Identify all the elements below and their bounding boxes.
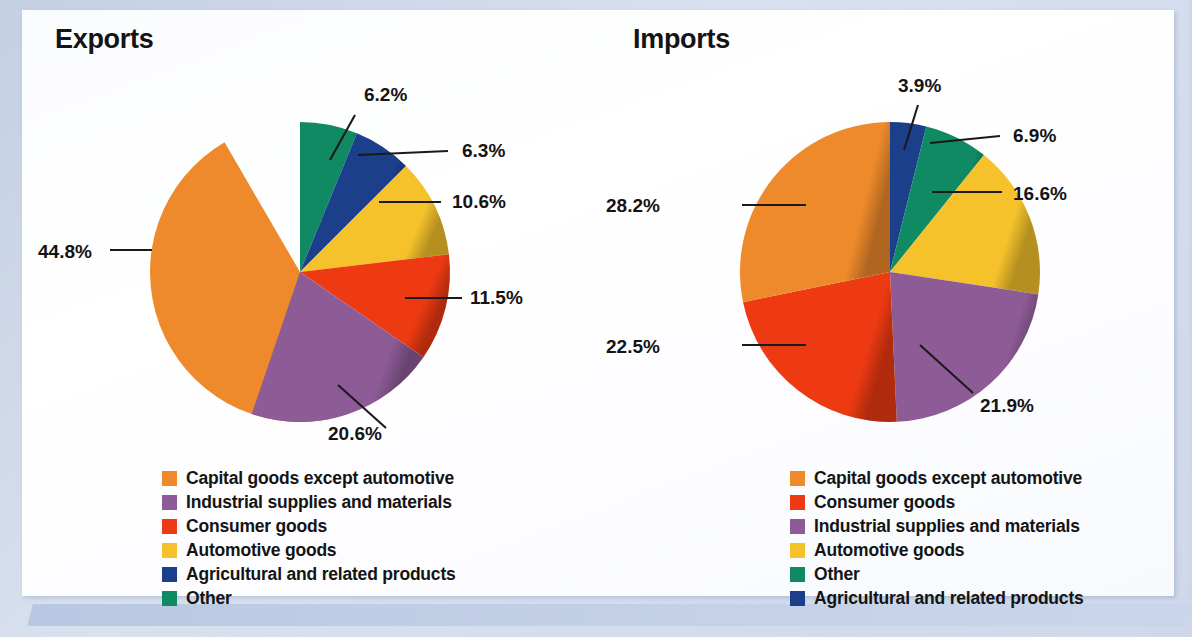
legend-item: Agricultural and related products <box>162 562 456 586</box>
slice-percent-label: 6.2% <box>364 84 407 105</box>
exports-pie-chart: 44.8%6.2%6.3%10.6%11.5%20.6% <box>0 0 594 470</box>
legend-item: Agricultural and related products <box>790 586 1084 610</box>
imports-pie-slices <box>740 122 1040 422</box>
imports-legend: Capital goods except automotiveConsumer … <box>790 466 1084 610</box>
slice-percent-label: 3.9% <box>898 75 941 96</box>
legend-color-swatch <box>162 471 177 486</box>
legend-color-swatch <box>162 567 177 582</box>
legend-color-swatch <box>790 567 805 582</box>
legend-item: Other <box>162 586 456 610</box>
exports-pie-slices <box>150 122 450 422</box>
slice-percent-label: 10.6% <box>452 191 506 212</box>
legend-item-label: Industrial supplies and materials <box>186 492 452 513</box>
legend-item-label: Other <box>814 564 860 585</box>
slice-percent-label: 11.5% <box>470 287 523 308</box>
legend-color-swatch <box>162 591 177 606</box>
legend-item-label: Other <box>186 588 232 609</box>
legend-item-label: Agricultural and related products <box>814 588 1084 609</box>
legend-color-swatch <box>790 543 805 558</box>
legend-item: Industrial supplies and materials <box>162 490 456 514</box>
legend-color-swatch <box>790 471 805 486</box>
imports-pie-chart: 3.9%6.9%16.6%21.9%22.5%28.2% <box>558 0 1189 470</box>
legend-color-swatch <box>790 495 805 510</box>
slice-percent-label: 28.2% <box>606 195 660 216</box>
legend-item: Automotive goods <box>790 538 1084 562</box>
legend-color-swatch <box>162 495 177 510</box>
pie-slice <box>740 122 890 302</box>
exports-legend: Capital goods except automotiveIndustria… <box>162 466 456 610</box>
legend-item-label: Capital goods except automotive <box>186 468 454 489</box>
legend-item: Consumer goods <box>162 514 456 538</box>
slice-percent-label: 44.8% <box>38 241 92 262</box>
legend-item-label: Automotive goods <box>186 540 336 561</box>
legend-item: Consumer goods <box>790 490 1084 514</box>
legend-color-swatch <box>162 519 177 534</box>
slice-percent-label: 6.3% <box>462 140 505 161</box>
slice-percent-label: 20.6% <box>328 423 382 444</box>
legend-color-swatch <box>162 543 177 558</box>
legend-item-label: Automotive goods <box>814 540 964 561</box>
legend-item: Capital goods except automotive <box>162 466 456 490</box>
legend-item-label: Agricultural and related products <box>186 564 456 585</box>
legend-item: Industrial supplies and materials <box>790 514 1084 538</box>
legend-color-swatch <box>790 519 805 534</box>
legend-item: Automotive goods <box>162 538 456 562</box>
legend-color-swatch <box>790 591 805 606</box>
slice-percent-label: 22.5% <box>606 336 660 357</box>
legend-item-label: Capital goods except automotive <box>814 468 1082 489</box>
legend-item: Other <box>790 562 1084 586</box>
legend-item-label: Consumer goods <box>186 516 327 537</box>
legend-item-label: Consumer goods <box>814 492 955 513</box>
legend-item: Capital goods except automotive <box>790 466 1084 490</box>
legend-item-label: Industrial supplies and materials <box>814 516 1080 537</box>
slice-percent-label: 21.9% <box>980 395 1034 416</box>
slice-percent-label: 6.9% <box>1013 125 1056 146</box>
slice-percent-label: 16.6% <box>1013 183 1067 204</box>
